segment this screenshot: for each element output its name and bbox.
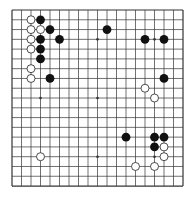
white-stone[interactable] bbox=[27, 26, 35, 34]
black-stone[interactable] bbox=[122, 133, 131, 142]
star-point bbox=[153, 155, 156, 158]
white-stone[interactable] bbox=[151, 162, 159, 170]
white-stone[interactable] bbox=[160, 153, 168, 161]
black-stone[interactable] bbox=[160, 74, 169, 83]
black-stone[interactable] bbox=[36, 45, 45, 54]
white-stone[interactable] bbox=[141, 84, 149, 92]
white-stone[interactable] bbox=[27, 45, 35, 53]
white-stone[interactable] bbox=[37, 153, 45, 161]
white-stone[interactable] bbox=[160, 143, 168, 151]
white-stone[interactable] bbox=[151, 94, 159, 102]
go-board[interactable] bbox=[0, 0, 195, 197]
star-point bbox=[96, 97, 99, 100]
black-stone[interactable] bbox=[46, 74, 55, 83]
star-point bbox=[153, 38, 156, 41]
black-stone[interactable] bbox=[103, 25, 112, 34]
white-stone[interactable] bbox=[27, 65, 35, 73]
black-stone[interactable] bbox=[36, 15, 45, 24]
white-stone[interactable] bbox=[37, 26, 45, 34]
star-point bbox=[39, 97, 42, 100]
black-stone[interactable] bbox=[150, 143, 159, 152]
black-stone[interactable] bbox=[46, 25, 55, 34]
black-stone[interactable] bbox=[160, 35, 169, 44]
black-stone[interactable] bbox=[36, 35, 45, 44]
star-point bbox=[96, 38, 99, 41]
white-stone[interactable] bbox=[132, 162, 140, 170]
black-stone[interactable] bbox=[36, 55, 45, 64]
black-stone[interactable] bbox=[160, 133, 169, 142]
black-stone[interactable] bbox=[55, 35, 64, 44]
black-stone[interactable] bbox=[141, 35, 150, 44]
star-point bbox=[96, 155, 99, 158]
white-stone[interactable] bbox=[27, 35, 35, 43]
white-stone[interactable] bbox=[27, 16, 35, 24]
white-stone[interactable] bbox=[27, 74, 35, 82]
black-stone[interactable] bbox=[150, 133, 159, 142]
